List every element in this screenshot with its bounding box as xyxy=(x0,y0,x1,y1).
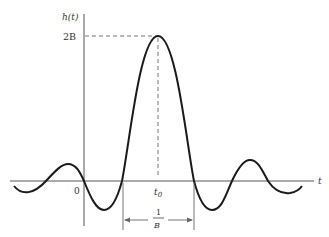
center-label: t0 xyxy=(154,187,163,199)
peak-label: 2B xyxy=(63,31,76,42)
width-label-denominator: B xyxy=(153,221,160,230)
center-subscript: 0 xyxy=(158,191,163,199)
arrowhead-left-icon xyxy=(124,218,130,223)
origin-label: 0 xyxy=(74,186,80,196)
y-axis-label: h(t) xyxy=(62,12,79,22)
sinc-pulse-diagram: h(t) 2B 0 t0 t 1 B xyxy=(0,0,329,237)
arrowhead-right-icon xyxy=(187,218,193,223)
x-axis-label: t xyxy=(318,176,322,186)
width-label-numerator: 1 xyxy=(156,208,161,217)
